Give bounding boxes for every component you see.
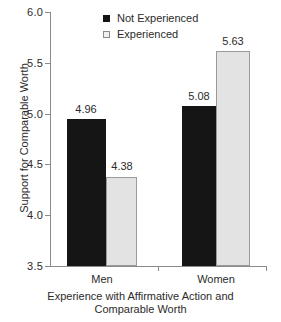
bar-women-not-experienced <box>182 106 216 266</box>
y-tick-mark-4-0 <box>45 215 50 216</box>
x-axis-title-line-2: Comparable Worth <box>10 303 271 316</box>
x-category-label-women: Women <box>176 273 256 285</box>
y-tick-mark-5-5 <box>45 63 50 64</box>
y-tick-mark-5-0 <box>45 114 50 115</box>
x-axis-title: Experience with Affirmative Action and C… <box>10 290 271 316</box>
legend-swatch-filled-square-icon <box>103 15 110 22</box>
y-tick-text: 6.0 <box>3 7 43 18</box>
y-axis-title: Support for Comparable Worth <box>18 28 30 248</box>
legend-label-not-experienced: Not Experienced <box>117 12 198 24</box>
y-tick-text: 3.5 <box>3 261 43 272</box>
y-tick-mark-4-5 <box>45 164 50 165</box>
y-axis-line <box>50 12 51 267</box>
x-axis-title-line-1: Experience with Affirmative Action and <box>10 290 271 303</box>
bar-men-experienced <box>106 177 137 266</box>
x-category-label-men: Men <box>62 273 142 285</box>
legend-label-experienced: Experienced <box>117 28 178 40</box>
y-tick-label-6-0: 6.0 <box>0 7 43 18</box>
bar-men-not-experienced <box>67 119 106 266</box>
bar-women-experienced <box>216 51 250 266</box>
y-tick-label-3-5: 3.5 <box>0 261 43 272</box>
x-tick-mark-group-divider <box>158 266 159 271</box>
y-tick-mark-6-0 <box>45 12 50 13</box>
x-tick-mark-end <box>266 266 267 271</box>
bar-value-label-women-experienced: 5.63 <box>206 36 260 47</box>
bar-value-label-men-not-experienced: 4.96 <box>59 104 113 115</box>
legend-item-not-experienced: Not Experienced <box>103 11 233 25</box>
bar-chart-figure: Not Experienced Experienced 6.0 5.5 5.0 … <box>0 0 281 322</box>
legend-swatch-open-square-icon <box>103 31 110 38</box>
bar-value-label-men-experienced: 4.38 <box>95 161 149 172</box>
